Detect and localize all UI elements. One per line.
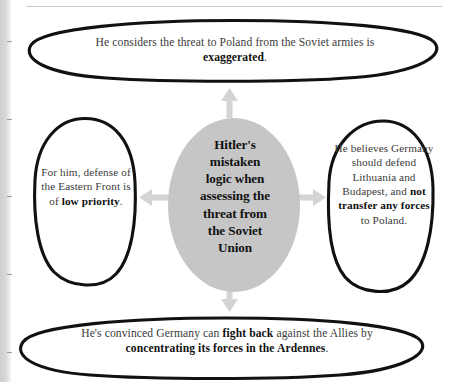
arrow-up-icon [221, 88, 238, 118]
node-bottom-text: He's convinced Germany can fight back ag… [52, 327, 402, 357]
arrow-left-icon [139, 189, 171, 206]
node-top-text: He considers the threat to Poland from t… [92, 36, 378, 66]
node-left-text: For him, defense of the Eastern Front is… [40, 165, 132, 208]
node-right-text: He believes Germany should defend Lithua… [334, 141, 434, 227]
center-node-text: Hitler'smistakenlogic whenassessing thet… [178, 136, 292, 256]
arrow-right-icon [297, 189, 326, 206]
diagram-page: He considers the threat to Poland from t… [0, 0, 449, 382]
